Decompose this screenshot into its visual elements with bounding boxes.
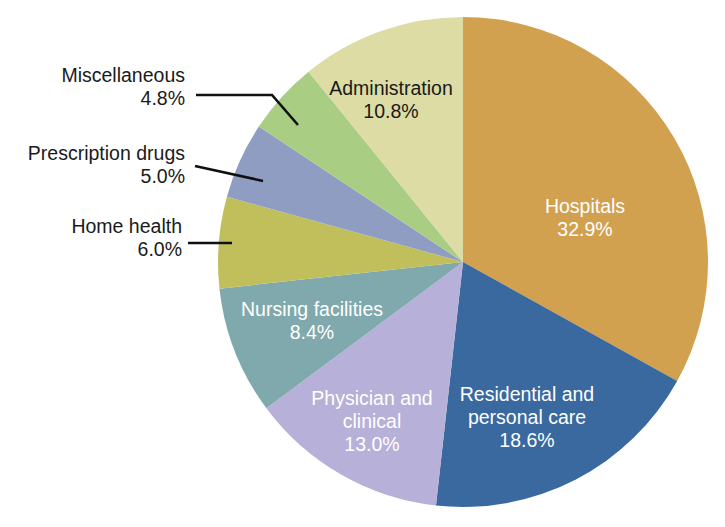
- pie-slice-label-line: personal care: [468, 406, 586, 428]
- pie-slice-label-line: 13.0%: [344, 433, 399, 455]
- pie-slice-label-line: clinical: [343, 410, 402, 432]
- pie-slice-label-line: Administration: [329, 77, 453, 99]
- pie-slice-label-line: 10.8%: [363, 100, 418, 122]
- pie-slices-group: [218, 17, 708, 507]
- pie-slice-label-line: 32.9%: [557, 218, 612, 240]
- pie-slice-label-line: Hospitals: [545, 195, 625, 217]
- pie-slice-label-line: 6.0%: [138, 238, 182, 260]
- pie-slice-label: Miscellaneous4.8%: [61, 64, 185, 109]
- pie-slice-label: Home health6.0%: [71, 215, 182, 260]
- pie-slice-label-line: 18.6%: [499, 429, 554, 451]
- pie-chart: Hospitals32.9%Residential andpersonal ca…: [0, 0, 725, 527]
- pie-slice-label: Prescription drugs5.0%: [28, 142, 185, 187]
- pie-slice-label-line: 4.8%: [141, 87, 185, 109]
- pie-slice-label-line: Physician and: [311, 387, 432, 409]
- pie-slice-label-line: Nursing facilities: [241, 298, 383, 320]
- pie-slice-label-line: 5.0%: [141, 165, 185, 187]
- pie-slice-label-line: 8.4%: [290, 321, 334, 343]
- pie-chart-canvas: Hospitals32.9%Residential andpersonal ca…: [0, 0, 725, 527]
- pie-slice-label-line: Residential and: [460, 383, 594, 405]
- pie-slice-label-line: Miscellaneous: [61, 64, 185, 86]
- pie-slice-label-line: Prescription drugs: [28, 142, 185, 164]
- pie-slice-label-line: Home health: [71, 215, 182, 237]
